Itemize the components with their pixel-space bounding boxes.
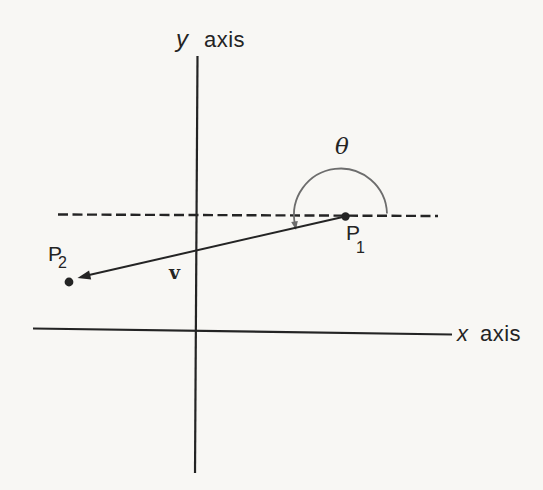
x-axis-word-label: axis — [480, 321, 521, 346]
point-p1-dot — [341, 212, 349, 220]
theta-label: θ — [335, 133, 349, 159]
x-axis-line — [33, 329, 452, 335]
point-p2-dot — [65, 278, 74, 287]
x-axis-symbol-label: x — [456, 321, 469, 346]
vector-v-label: v — [168, 261, 181, 283]
y-axis-word-label: axis — [204, 27, 245, 52]
dashed-reference-line — [58, 215, 438, 217]
vector-line — [83, 217, 346, 277]
figure-canvas: y axis x axis θ P 1 P 2 v — [0, 0, 543, 490]
p1-subscript-label: 1 — [356, 239, 365, 256]
vector-angle-figure: y axis x axis θ P 1 P 2 v — [0, 0, 543, 490]
y-axis-symbol-label: y — [174, 25, 190, 52]
vector-arrowhead-icon — [78, 271, 92, 280]
p2-subscript-label: 2 — [58, 254, 67, 271]
y-axis-line — [195, 56, 198, 473]
